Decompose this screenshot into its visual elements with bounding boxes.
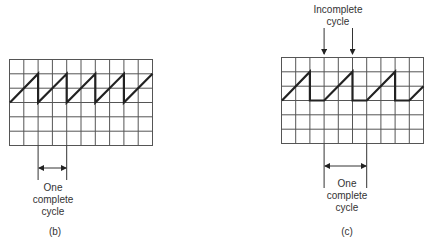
label-line: complete (316, 190, 378, 202)
measure-b (38, 146, 67, 181)
label-line: cycle (316, 202, 378, 214)
grid-b (10, 60, 153, 146)
measure-label-b: One complete cycle (22, 182, 84, 218)
incomplete-cycle-arrows (324, 28, 352, 54)
caption-c: (c) (332, 226, 362, 238)
label-line: cycle (22, 206, 84, 218)
label-line: One (22, 182, 84, 194)
caption-b: (b) (40, 226, 70, 238)
label-line: Incomplete (305, 4, 371, 16)
label-line: One (316, 178, 378, 190)
label-line: cycle (305, 16, 371, 28)
label-line: complete (22, 194, 84, 206)
incomplete-cycle-label: Incomplete cycle (305, 4, 371, 28)
measure-label-c: One complete cycle (316, 178, 378, 214)
